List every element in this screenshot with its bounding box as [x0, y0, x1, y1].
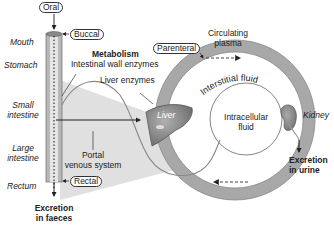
label-small-intestine: Small intestine — [6, 100, 40, 120]
gut-top — [46, 32, 62, 37]
label-circulating-plasma: Circulating plasma — [200, 28, 256, 48]
label-rectum: Rectum — [7, 181, 36, 191]
label-metabolism: Metabolism — [92, 49, 139, 59]
label-large-intestine: Large intestine — [6, 143, 40, 163]
label-liver: Liver — [157, 110, 175, 120]
route-rectal: Rectal — [70, 176, 102, 187]
route-parenteral: Parenteral — [153, 43, 200, 54]
label-excretion-urine: Excretion in urine — [289, 155, 328, 175]
label-stomach: Stomach — [4, 60, 38, 70]
label-portal-venous-system: Portal venous system — [60, 150, 126, 170]
label-kidney: Kidney — [303, 110, 329, 120]
label-mouth: Mouth — [10, 37, 34, 47]
label-intracellular-fluid: Intracellular fluid — [215, 112, 277, 132]
label-liver-enzymes: Liver enzymes — [100, 75, 155, 85]
label-intestinal-wall-enzymes: Intestinal wall enzymes — [71, 59, 158, 69]
route-buccal: Buccal — [70, 29, 104, 40]
label-excretion-faeces: Excretion in faeces — [30, 203, 78, 223]
route-oral: Oral — [39, 2, 63, 13]
